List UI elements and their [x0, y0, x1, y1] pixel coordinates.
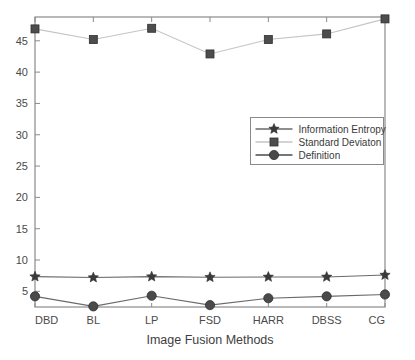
- y-tick-label: 15: [16, 223, 28, 235]
- legend-label-information-entropy: Information Entropy: [299, 124, 386, 135]
- data-point-marker: [205, 301, 214, 310]
- y-tick-label: 45: [16, 35, 28, 47]
- x-tick-label-harr: HARR: [253, 314, 284, 326]
- chart-canvas: 51015202530354045 DBDBLLPFSDHARRDBSSCG I…: [0, 0, 415, 360]
- data-point-marker: [264, 294, 273, 303]
- x-tick-label-cg: CG: [369, 314, 386, 326]
- legend-label-definition: Definition: [299, 150, 341, 161]
- data-point-marker: [148, 24, 156, 32]
- legend-marker-circle: [269, 150, 278, 159]
- data-point-marker: [31, 25, 39, 33]
- x-tick-label-dbss: DBSS: [312, 314, 342, 326]
- x-tick-label-dbd: DBD: [35, 314, 58, 326]
- chart-legend[interactable]: Information EntropyStandard DeviatonDefi…: [251, 118, 386, 165]
- data-point-marker: [30, 292, 39, 301]
- x-tick-label-bl: BL: [87, 314, 100, 326]
- y-tick-label: 25: [16, 160, 28, 172]
- y-tick-label: 40: [16, 66, 28, 78]
- data-point-marker: [381, 15, 389, 23]
- data-point-marker: [89, 36, 97, 44]
- data-point-marker: [206, 50, 214, 58]
- x-tick-label-lp: LP: [145, 314, 158, 326]
- line-chart: 51015202530354045 DBDBLLPFSDHARRDBSSCG I…: [0, 0, 415, 360]
- data-point-marker: [323, 30, 331, 38]
- legend-marker-square: [270, 138, 278, 146]
- y-tick-label: 5: [22, 285, 28, 297]
- y-tick-label: 35: [16, 97, 28, 109]
- x-axis-title: Image Fusion Methods: [146, 333, 273, 347]
- data-point-marker: [89, 302, 98, 311]
- y-tick-label: 20: [16, 191, 28, 203]
- y-tick-label: 10: [16, 254, 28, 266]
- legend-label-standard-deviaton: Standard Deviaton: [299, 137, 382, 148]
- data-point-marker: [264, 36, 272, 44]
- data-point-marker: [147, 291, 156, 300]
- data-point-marker: [322, 292, 331, 301]
- y-tick-label: 30: [16, 129, 28, 141]
- x-tick-label-fsd: FSD: [199, 314, 221, 326]
- data-point-marker: [380, 290, 389, 299]
